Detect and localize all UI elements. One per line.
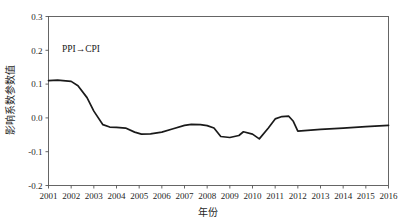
x-tick-label: 2004 bbox=[108, 191, 127, 201]
x-tick-label: 2010 bbox=[244, 191, 263, 201]
x-tick-label: 2011 bbox=[266, 191, 284, 201]
y-tick-label: 0.1 bbox=[31, 79, 42, 89]
x-tick-label: 2009 bbox=[221, 191, 240, 201]
y-tick-label: -0.2 bbox=[28, 181, 42, 191]
series-line-ppi-cpi bbox=[49, 80, 389, 139]
y-axis: 0.30.20.10.0-0.1-0.2 bbox=[28, 12, 48, 191]
x-axis-title: 年份 bbox=[198, 206, 218, 218]
x-tick-label: 2016 bbox=[380, 191, 399, 201]
y-tick-label: -0.1 bbox=[28, 147, 42, 157]
plot-frame bbox=[49, 17, 389, 186]
x-tick-label: 2005 bbox=[130, 191, 149, 201]
x-tick-label: 2015 bbox=[357, 191, 376, 201]
x-axis: 2001200220032004200520062007200820092010… bbox=[40, 186, 399, 201]
x-tick-label: 2001 bbox=[40, 191, 58, 201]
x-tick-label: 2014 bbox=[334, 191, 353, 201]
y-axis-title: 影响系数参数值 bbox=[4, 65, 16, 135]
x-tick-label: 2003 bbox=[85, 191, 104, 201]
x-tick-label: 2006 bbox=[153, 191, 172, 201]
x-tick-label: 2002 bbox=[62, 191, 80, 201]
series-annotation: PPI→CPI bbox=[62, 44, 100, 54]
x-tick-label: 2012 bbox=[289, 191, 307, 201]
chart-container: 0.30.20.10.0-0.1-0.2 2001200220032004200… bbox=[0, 0, 407, 223]
y-tick-label: 0.0 bbox=[31, 113, 43, 123]
line-chart: 0.30.20.10.0-0.1-0.2 2001200220032004200… bbox=[0, 0, 407, 223]
y-tick-label: 0.2 bbox=[31, 46, 42, 56]
x-tick-label: 2013 bbox=[312, 191, 331, 201]
y-tick-label: 0.3 bbox=[31, 12, 43, 22]
x-tick-label: 2008 bbox=[198, 191, 217, 201]
x-tick-label: 2007 bbox=[176, 191, 195, 201]
